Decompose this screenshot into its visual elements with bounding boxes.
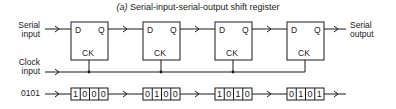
bit-cell: 0	[80, 88, 89, 100]
bit-cell: 1	[152, 88, 161, 100]
shift-register-diagram: DQCK DQCK DQCK DQCK	[0, 0, 396, 109]
svg-text:CK: CK	[154, 48, 166, 58]
svg-text:D: D	[291, 25, 297, 35]
bit-cell: 0	[224, 88, 233, 100]
svg-text:D: D	[147, 25, 153, 35]
svg-text:Q: Q	[314, 25, 321, 35]
bit-cell: 1	[296, 88, 305, 100]
svg-text:CK: CK	[226, 48, 238, 58]
svg-text:CK: CK	[298, 48, 310, 58]
bit-cell: 0	[143, 88, 152, 100]
svg-text:Q: Q	[98, 25, 105, 35]
svg-text:D: D	[219, 25, 225, 35]
bit-cell: 1	[71, 88, 80, 100]
svg-text:CK: CK	[82, 48, 94, 58]
bit-cell: 0	[287, 88, 296, 100]
svg-text:Q: Q	[170, 25, 177, 35]
ff1-d: D	[75, 25, 81, 35]
bit-cell: 1	[215, 88, 224, 100]
bit-cell: 0	[99, 88, 108, 100]
bit-cell: 1	[315, 88, 324, 100]
bit-cell: 0	[243, 88, 252, 100]
bit-cell: 1	[234, 88, 243, 100]
bit-cell: 0	[171, 88, 180, 100]
bit-cell: 0	[306, 88, 315, 100]
bit-cell: 0	[162, 88, 171, 100]
bit-cell: 0	[90, 88, 99, 100]
svg-text:Q: Q	[242, 25, 249, 35]
